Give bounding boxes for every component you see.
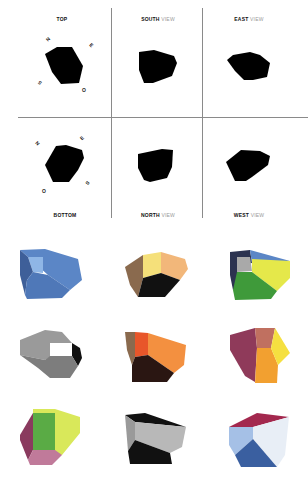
silhouette-north: [110, 110, 210, 220]
colored-solid-2-1: [0, 320, 110, 410]
silhouette-east: [200, 0, 308, 110]
colored-solid-1-2: [110, 235, 200, 325]
colored-solid-1-1: [0, 235, 110, 325]
view-label-west: WEST VIEW: [234, 212, 264, 218]
colored-solid-3-3: [205, 405, 308, 495]
colored-solid-3-1: [0, 405, 110, 495]
colored-solid-3-2: [110, 405, 200, 495]
silhouette-west: [200, 110, 308, 220]
view-label-north: NORTH VIEW: [141, 212, 175, 218]
colored-solid-1-3: [205, 235, 308, 325]
view-label-bottom: BOTTOM: [54, 212, 77, 218]
silhouette-south: [110, 0, 210, 110]
compass-mark-o: O: [82, 87, 86, 93]
compass-mark-o: O: [42, 188, 46, 194]
silhouette-top: [0, 0, 110, 110]
silhouette-bottom: [0, 110, 110, 220]
colored-solid-2-3: [205, 320, 308, 410]
colored-solid-2-2: [110, 320, 200, 410]
